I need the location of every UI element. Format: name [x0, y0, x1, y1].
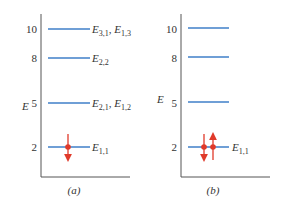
electron-spin-down-icon — [201, 134, 207, 158]
tick-10: 10 — [26, 23, 38, 35]
caption-a: (a) — [68, 184, 81, 197]
electron-spin-up-icon — [210, 136, 216, 160]
caption-b: (b) — [207, 184, 220, 197]
tick-5: 5 — [172, 97, 178, 109]
electron-spin-down-icon — [65, 134, 71, 158]
tick-2: 2 — [172, 141, 178, 153]
tick-8: 8 — [32, 52, 38, 64]
tick-5: 5 — [32, 97, 38, 109]
tick-8: 8 — [172, 52, 178, 64]
axis-label-e: E — [156, 93, 164, 105]
level-label-5: E2,1, E1,2 — [91, 97, 131, 112]
tick-10: 10 — [166, 23, 178, 35]
level-label-10: E3,1, E1,3 — [91, 23, 131, 38]
energy-level-diagram: E 10 E3,1, E1,3 8 E2,2 5 E2,1, E1,2 2 E1… — [0, 0, 281, 209]
axis-label-e: E — [21, 100, 29, 112]
tick-2: 2 — [32, 141, 38, 153]
level-label-2: E1,1 — [91, 141, 109, 156]
level-label-8: E2,2 — [91, 52, 109, 67]
panel-b: E 10 8 5 2 E1,1 (b) — [156, 14, 270, 197]
level-label-2: E1,1 — [231, 141, 249, 156]
panel-a: E 10 E3,1, E1,3 8 E2,2 5 E2,1, E1,2 2 E1… — [21, 14, 131, 197]
